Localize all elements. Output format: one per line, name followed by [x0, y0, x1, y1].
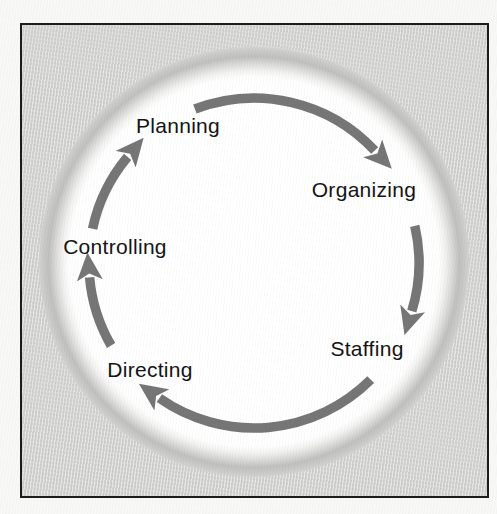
step-label-staffing: Staffing: [330, 337, 403, 361]
step-label-planning: Planning: [136, 114, 220, 138]
page: Planning Organizing Staffing Directing C…: [0, 0, 497, 514]
arrow-controlling-to-planning: [93, 157, 128, 229]
arrow-planning-to-organizing: [195, 98, 375, 150]
step-label-organizing: Organizing: [312, 178, 417, 202]
step-label-directing: Directing: [107, 358, 193, 382]
cycle-arrows: [22, 25, 487, 496]
arrow-organizing-to-staffing: [412, 226, 419, 311]
arrow-staffing-to-directing: [159, 380, 370, 428]
diagram-frame: Planning Organizing Staffing Directing C…: [20, 23, 489, 498]
step-label-controlling: Controlling: [63, 235, 167, 259]
arrow-directing-to-controlling: [90, 277, 112, 345]
